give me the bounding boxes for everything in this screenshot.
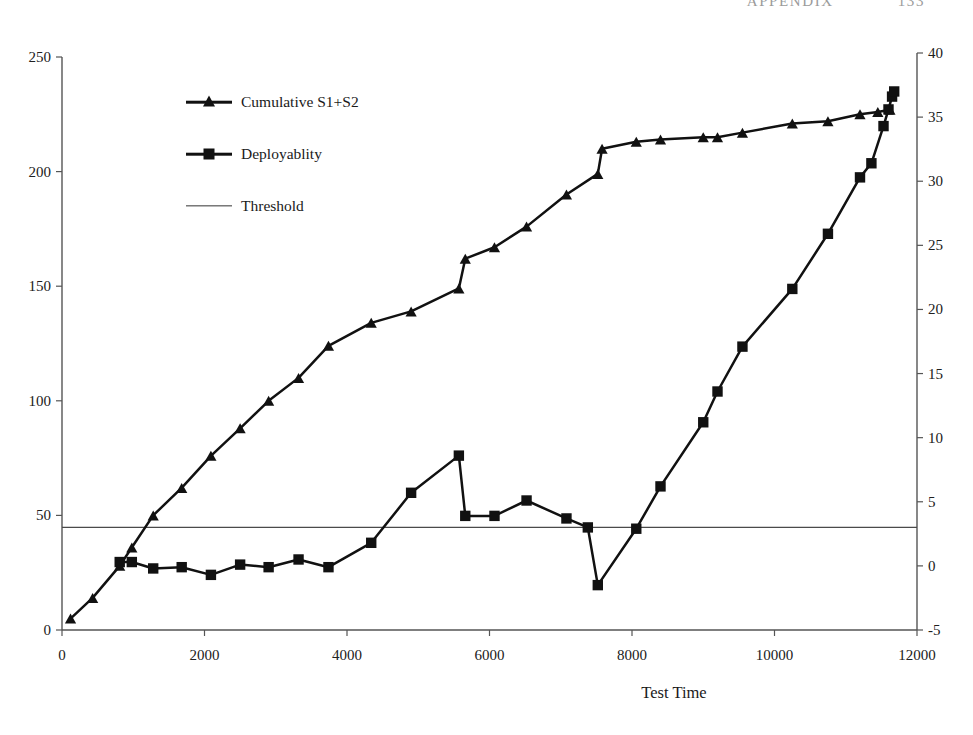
data-point-marker: [460, 254, 471, 264]
legend-label-threshold: Threshold: [241, 197, 304, 215]
data-point-marker: [561, 513, 571, 523]
x-axis-tick-label: 10000: [756, 648, 794, 663]
legend-item-deployability: Deployablity: [186, 128, 426, 180]
x-axis-ticks: [62, 630, 917, 636]
data-point-marker: [583, 522, 593, 532]
legend-label-cumulative: Cumulative S1+S2: [241, 93, 359, 111]
data-point-marker: [655, 481, 665, 491]
x-axis-tick-label: 0: [58, 648, 66, 663]
y-axis-right-tick-label: -5: [928, 623, 941, 638]
data-point-marker: [453, 283, 464, 293]
y-axis-left-tick-label: 0: [44, 623, 52, 638]
y-axis-right-tick-label: 0: [928, 558, 936, 573]
data-point-marker: [460, 511, 470, 521]
y-axis-left-ticks: [56, 57, 62, 630]
y-axis-right-tick-label: 25: [928, 238, 943, 253]
data-point-marker: [592, 169, 603, 179]
legend-item-cumulative: Cumulative S1+S2: [186, 76, 426, 128]
data-point-marker: [883, 104, 893, 114]
y-axis-left-tick-label: 150: [29, 279, 52, 294]
y-axis-right-tick-label: 35: [928, 110, 943, 125]
y-axis-right-tick-label: 20: [928, 302, 943, 317]
data-point-marker: [878, 121, 888, 131]
data-point-marker: [823, 229, 833, 239]
y-axis-right-tick-label: 15: [928, 366, 943, 381]
data-point-marker: [712, 386, 722, 396]
y-axis-right-tick-label: 10: [928, 430, 943, 445]
data-point-marker: [206, 570, 216, 580]
data-point-marker: [454, 450, 464, 460]
data-point-marker: [521, 495, 531, 505]
data-point-marker: [698, 417, 708, 427]
y-axis-right-tick-label: 5: [928, 494, 936, 509]
data-point-marker: [406, 488, 416, 498]
data-point-marker: [115, 557, 125, 567]
data-point-marker: [126, 542, 137, 552]
data-point-marker: [263, 562, 273, 572]
legend-item-threshold: Threshold: [186, 180, 426, 232]
data-point-marker: [148, 563, 158, 573]
data-point-marker: [855, 172, 865, 182]
y-axis-right-ticks: [917, 53, 923, 630]
legend-marker-square-icon: [186, 147, 232, 161]
legend-marker-triangle-icon: [186, 95, 232, 109]
data-point-marker: [787, 284, 797, 294]
data-point-marker: [293, 554, 303, 564]
y-axis-right-tick-label: 40: [928, 46, 943, 61]
x-axis-tick-label: 2000: [190, 648, 220, 663]
data-point-marker: [489, 511, 499, 521]
chart-legend: Cumulative S1+S2 Deployablity Threshold: [186, 76, 426, 232]
chart-plot-area: [0, 0, 973, 735]
data-point-marker: [737, 341, 747, 351]
data-point-marker: [889, 86, 899, 96]
legend-label-deployability: Deployablity: [241, 145, 322, 163]
legend-marker-line-icon: [186, 199, 232, 213]
y-axis-left-tick-label: 100: [29, 393, 52, 408]
x-axis-tick-label: 8000: [617, 648, 647, 663]
x-axis-tick-label: 4000: [332, 648, 362, 663]
data-point-marker: [366, 538, 376, 548]
y-axis-right-tick-label: 30: [928, 174, 943, 189]
data-point-marker: [323, 562, 333, 572]
data-point-marker: [177, 562, 187, 572]
chart-figure: 050100150200250 -50510152025303540 02000…: [0, 0, 973, 735]
x-axis-tick-label: 6000: [475, 648, 505, 663]
y-axis-left-tick-label: 250: [29, 50, 52, 65]
y-axis-left-tick-label: 200: [29, 164, 52, 179]
data-point-marker: [866, 158, 876, 168]
data-point-marker: [593, 580, 603, 590]
data-point-marker: [127, 557, 137, 567]
data-point-marker: [631, 524, 641, 534]
data-point-marker: [235, 559, 245, 569]
x-axis-tick-label: 12000: [898, 648, 936, 663]
y-axis-left-tick-label: 50: [36, 508, 51, 523]
x-axis-title: Test Time: [0, 683, 973, 703]
